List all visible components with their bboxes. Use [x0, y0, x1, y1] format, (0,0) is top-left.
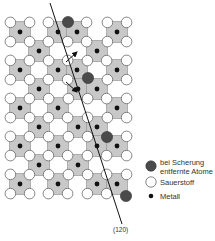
oxygen-atom	[82, 131, 93, 142]
metal-atom	[95, 125, 100, 130]
legend-label-oxygen: Sauerstoff	[160, 178, 195, 187]
oxygen-atom	[24, 169, 35, 180]
oxygen-atom	[102, 17, 113, 28]
legend-label-removed-1: bei Scherung	[160, 158, 204, 167]
oxygen-atom	[5, 93, 16, 104]
oxygen-atom	[102, 74, 113, 85]
metal-atom	[115, 144, 120, 149]
oxygen-atom	[121, 131, 132, 142]
metal-atom	[115, 182, 120, 187]
removed-atom	[101, 131, 112, 142]
oxygen-atom	[63, 93, 74, 104]
oxygen-atom	[82, 93, 93, 104]
oxygen-atom	[63, 169, 74, 180]
oxygen-atom	[121, 74, 132, 85]
oxygen-atom	[101, 150, 112, 161]
oxygen-atom	[24, 74, 35, 85]
oxygen-icon	[146, 177, 156, 187]
oxygen-atom	[24, 17, 35, 28]
legend-item-removed-atom: bei Scherung entfernte Atome	[146, 158, 213, 176]
metal-atom	[115, 30, 120, 35]
metal-atom	[37, 49, 42, 54]
oxygen-atom	[101, 188, 112, 199]
removed-atom	[82, 72, 93, 83]
oxygen-atom	[81, 17, 92, 28]
metal-atom	[18, 68, 23, 73]
oxygen-atom	[5, 169, 16, 180]
metal-atom	[95, 182, 100, 187]
oxygen-atom	[5, 74, 16, 85]
oxygen-atom	[5, 112, 16, 123]
oxygen-atom	[24, 150, 35, 161]
oxygen-atom	[82, 55, 93, 66]
oxygen-atom	[121, 112, 132, 123]
oxygen-atom	[63, 131, 74, 142]
oxygen-atom	[43, 36, 54, 47]
oxygen-atom	[62, 150, 73, 161]
oxygen-atom	[121, 169, 132, 180]
oxygen-atom	[24, 131, 35, 142]
oxygen-atom	[43, 55, 54, 66]
legend-item-metal: Metall	[149, 192, 181, 201]
metal-atom	[37, 87, 42, 92]
oxygen-atom	[5, 55, 16, 66]
oxygen-atom	[5, 36, 16, 47]
metal-atom	[56, 182, 61, 187]
oxygen-atom	[101, 93, 112, 104]
metal-atom	[95, 49, 100, 54]
oxygen-atom	[62, 112, 73, 123]
metal-atom	[18, 106, 23, 111]
oxygen-atom	[43, 17, 54, 28]
metal-atom	[75, 30, 80, 35]
metal-atom	[56, 106, 61, 111]
oxygen-atom	[121, 93, 132, 104]
oxygen-atom	[43, 112, 54, 123]
oxygen-atom	[102, 36, 113, 47]
oxygen-atom	[82, 150, 93, 161]
octahedra-layer	[10, 22, 128, 195]
oxygen-atom	[102, 112, 113, 123]
oxygen-atom	[81, 36, 92, 47]
oxygen-atom	[121, 55, 132, 66]
oxygen-atom	[43, 93, 54, 104]
metal-atom	[75, 68, 80, 73]
metal-atom	[95, 87, 100, 92]
oxygen-atom	[5, 188, 16, 199]
crystal-shear-diagram: (120) bei Scherung entfernte Atome Sauer…	[0, 0, 215, 241]
removed-atom	[62, 16, 73, 27]
oxygen-atom	[43, 150, 54, 161]
oxygen-atom	[5, 131, 16, 142]
oxygen-atom	[43, 169, 54, 180]
removed-atom-icon	[146, 161, 156, 171]
oxygen-atom	[24, 188, 35, 199]
legend-label-metal: Metall	[160, 192, 180, 201]
oxygen-atom	[121, 36, 132, 47]
metal-icon	[149, 194, 154, 199]
metal-atom	[115, 106, 120, 111]
metal-atom	[18, 182, 23, 187]
legend: bei Scherung entfernte Atome Sauerstoff …	[146, 158, 213, 201]
oxygen-atom	[43, 131, 54, 142]
oxygen-atom	[121, 17, 132, 28]
oxygen-atom	[24, 112, 35, 123]
oxygen-atom	[24, 55, 35, 66]
oxygen-atom	[82, 169, 93, 180]
metal-atom	[56, 144, 61, 149]
legend-item-oxygen: Sauerstoff	[146, 177, 195, 187]
oxygen-atom	[82, 188, 93, 199]
metal-atom	[37, 163, 42, 168]
oxygen-atom	[5, 150, 16, 161]
metal-atom	[18, 144, 23, 149]
oxygen-atom	[5, 17, 16, 28]
oxygen-atom	[43, 188, 54, 199]
removed-atom	[120, 190, 131, 201]
oxygen-atom	[62, 188, 73, 199]
oxygen-atom	[101, 55, 112, 66]
metal-atom	[18, 30, 23, 35]
metal-atom	[76, 125, 81, 130]
oxygen-atom	[43, 74, 54, 85]
oxygen-atom	[24, 93, 35, 104]
oxygen-atom	[24, 36, 35, 47]
oxygen-atom	[121, 150, 132, 161]
metal-atom	[76, 163, 81, 168]
